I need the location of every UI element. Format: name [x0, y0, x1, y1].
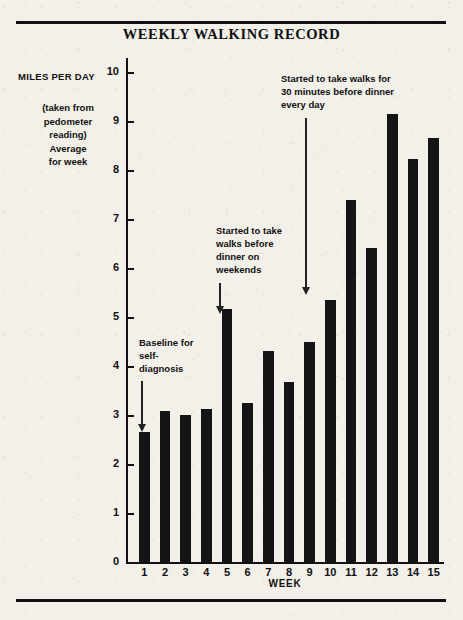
annotation-baseline: Baseline for self- diagnosis: [139, 336, 217, 375]
y-tick-mark: [128, 513, 134, 515]
annotation-baseline-line-3: diagnosis: [139, 362, 217, 375]
y-tick-label: 8: [113, 163, 119, 175]
bottom-divider-rule: [16, 599, 446, 602]
y-axis-subtitle-line-3: reading): [14, 128, 122, 142]
bar-week-4: [201, 409, 212, 562]
bar-week-9: [304, 342, 315, 563]
annotation-weekends-line-4: weekends: [216, 263, 302, 276]
annotation-everyday-line-2: 30 minutes before dinner: [281, 85, 431, 98]
annotation-baseline-arrow: [141, 381, 143, 425]
y-tick-label: 7: [113, 212, 119, 224]
bar-week-8: [284, 382, 295, 562]
annotation-baseline-line-1: Baseline for: [139, 336, 217, 349]
y-tick-label: 3: [113, 408, 119, 420]
bar-week-6: [242, 403, 253, 562]
y-tick-mark: [128, 317, 134, 319]
y-tick-mark: [128, 268, 134, 270]
y-tick-label: 5: [113, 310, 119, 322]
top-divider-rule: [16, 21, 446, 24]
annotation-everyday-line-1: Started to take walks for: [281, 72, 431, 85]
annotation-everyday: Started to take walks for 30 minutes bef…: [281, 72, 431, 111]
y-tick-label: 4: [113, 359, 119, 371]
y-tick-mark: [128, 170, 134, 172]
bar-week-10: [325, 300, 336, 562]
bar-week-3: [180, 415, 191, 562]
y-tick-mark: [128, 562, 134, 564]
y-tick-mark: [128, 219, 134, 221]
annotation-everyday-arrow: [305, 118, 307, 288]
bar-week-2: [160, 411, 171, 562]
y-axis-subtitle: (taken from pedometer reading) Average f…: [14, 101, 122, 169]
y-axis-subtitle-line-2: pedometer: [14, 115, 122, 129]
y-tick-label: 0: [113, 555, 119, 567]
y-tick-mark: [128, 464, 134, 466]
bar-week-13: [387, 114, 398, 562]
annotation-weekends-arrow: [219, 283, 221, 307]
y-tick-mark: [128, 72, 134, 74]
y-tick-mark: [128, 121, 134, 123]
y-tick-label: 1: [113, 506, 119, 518]
bar-week-12: [366, 248, 377, 562]
y-tick-mark: [128, 415, 134, 417]
annotation-weekends-line-3: dinner on: [216, 250, 302, 263]
y-tick-label: 10: [107, 65, 119, 77]
bar-week-14: [408, 159, 419, 562]
y-axis-subtitle-line-4: Average: [14, 142, 122, 156]
chart-page: WEEKLY WALKING RECORD MILES PER DAY (tak…: [0, 0, 463, 620]
y-tick-label: 9: [113, 114, 119, 126]
plot-area: 012345678910123456789101112131415: [126, 72, 444, 562]
chart-title: WEEKLY WALKING RECORD: [0, 26, 463, 43]
annotation-everyday-line-3: every day: [281, 98, 431, 111]
bar-week-7: [263, 351, 274, 562]
annotation-weekends-line-2: walks before: [216, 237, 302, 250]
bar-week-15: [428, 138, 439, 562]
bar-week-1: [139, 432, 150, 562]
x-axis-title: WEEK: [126, 578, 444, 589]
bar-week-5: [222, 309, 233, 562]
x-axis-line: [126, 562, 444, 564]
y-axis-subtitle-line-1: (taken from: [14, 101, 122, 115]
y-axis-line: [126, 58, 128, 562]
x-tick-label-15: 15: [420, 566, 448, 578]
annotation-weekends: Started to take walks before dinner on w…: [216, 224, 302, 276]
y-tick-mark: [128, 366, 134, 368]
y-tick-label: 2: [113, 457, 119, 469]
annotation-baseline-line-2: self-: [139, 349, 217, 362]
annotation-weekends-line-1: Started to take: [216, 224, 302, 237]
y-tick-label: 6: [113, 261, 119, 273]
y-axis-subtitle-line-5: for week: [14, 155, 122, 169]
bar-week-11: [346, 200, 357, 562]
